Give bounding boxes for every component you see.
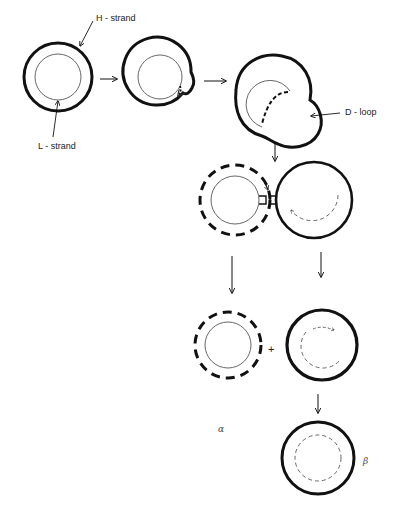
- gapped-circle: [287, 310, 357, 380]
- replication-diagram: [0, 0, 396, 507]
- alpha-circle: [195, 312, 261, 378]
- beta-circle: [282, 422, 354, 494]
- l-strand-pointer-arrow: [53, 101, 58, 137]
- alpha-label: α: [218, 424, 224, 434]
- segregating-left-circle: [200, 165, 270, 235]
- h-strand-pointer-arrow: [80, 21, 93, 46]
- initiation-circle: [123, 37, 194, 105]
- beta-label: β: [363, 456, 368, 466]
- d-loop-circle: [236, 55, 322, 147]
- d-loop-pointer-arrow: [311, 113, 340, 116]
- d-loop-label: D - loop: [345, 107, 377, 117]
- l-strand-label: L - strand: [38, 141, 76, 151]
- h-strand-label: H - strand: [96, 13, 136, 23]
- parental-circle: [24, 43, 92, 111]
- segregating-right-circle: [270, 162, 352, 238]
- plus-sign: +: [268, 343, 274, 355]
